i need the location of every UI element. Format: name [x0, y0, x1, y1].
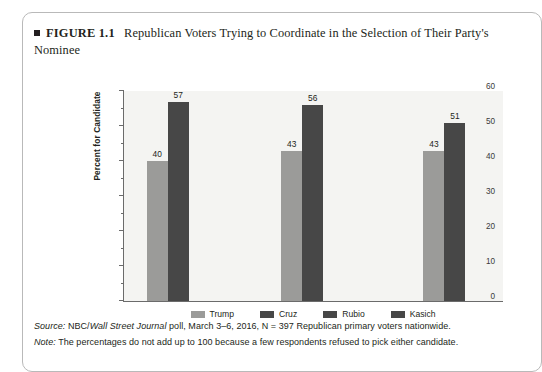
figure-label: FIGURE 1.1 [46, 26, 115, 40]
source-post: poll, March 3–6, 2016, N = 397 Republica… [166, 321, 450, 331]
note-keyword: Note: [34, 337, 56, 347]
bar-kasich: 51 [444, 123, 465, 302]
bar-value-label: 43 [287, 139, 296, 149]
bar-cruz: 57 [168, 102, 189, 302]
y-axis-title: Percent for Candidate [92, 76, 102, 196]
bar-value-label: 40 [153, 149, 162, 159]
bar-trump: 40 [147, 161, 168, 301]
chart: Percent for Candidate 0102030405060 4057… [63, 71, 503, 311]
legend-swatch-icon [323, 311, 337, 318]
source-pre: NBC/ [65, 321, 89, 331]
legend-swatch-icon [191, 311, 205, 318]
source-line: Source: NBC/Wall Street Journal poll, Ma… [34, 318, 522, 334]
bar-groups: 405743564351 [124, 91, 503, 301]
source-keyword: Source: [34, 321, 65, 331]
legend-swatch-icon [260, 311, 274, 318]
note-text: The percentages do not add up to 100 bec… [56, 337, 458, 347]
bar-rubio: 56 [302, 105, 323, 301]
figure-footnotes: Source: NBC/Wall Street Journal poll, Ma… [34, 318, 522, 350]
bar-value-label: 43 [429, 139, 438, 149]
plot-area: 0102030405060 405743564351 [123, 91, 503, 302]
figure-caption: FIGURE 1.1 Republican Voters Trying to C… [34, 25, 514, 59]
bar-trump: 43 [423, 151, 444, 301]
figure-card: FIGURE 1.1 Republican Voters Trying to C… [22, 12, 542, 372]
y-tick-label: 60 [486, 82, 495, 91]
bar-value-label: 56 [308, 93, 317, 103]
filled-square-icon [34, 30, 40, 36]
bar-trump: 43 [281, 151, 302, 301]
bar-value-label: 51 [450, 111, 459, 121]
legend-swatch-icon [391, 311, 405, 318]
source-publication: Wall Street Journal [90, 321, 167, 331]
note-line: Note: The percentages do not add up to 1… [34, 334, 522, 350]
bar-value-label: 57 [174, 90, 183, 100]
